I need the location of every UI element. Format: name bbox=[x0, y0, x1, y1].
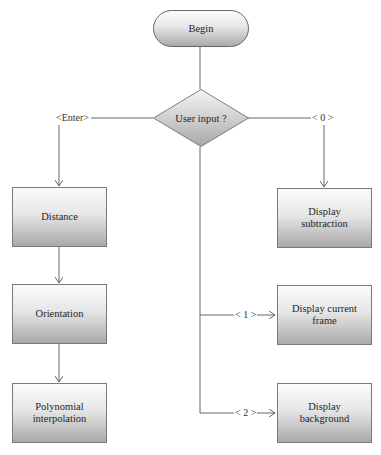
polynomial-interpolation-process: Polynomial interpolation bbox=[12, 383, 107, 443]
display-background-label: Display background bbox=[292, 401, 357, 425]
display-current-frame-process: Display current frame bbox=[277, 285, 372, 345]
branch-label-enter: <Enter> bbox=[55, 112, 90, 124]
display-subtraction-process: Display subtraction bbox=[277, 188, 372, 248]
distance-label: Distance bbox=[41, 211, 78, 223]
decision-label: User input ? bbox=[153, 89, 249, 147]
distance-process: Distance bbox=[12, 187, 107, 247]
display-background-process: Display background bbox=[277, 383, 372, 443]
branch-label-1: < 1 > bbox=[234, 309, 257, 321]
user-input-decision: User input ? bbox=[153, 89, 249, 147]
begin-terminal: Begin bbox=[153, 10, 249, 47]
orientation-process: Orientation bbox=[12, 284, 107, 344]
branch-label-2: < 2 > bbox=[234, 407, 257, 419]
display-current-frame-label: Display current frame bbox=[288, 303, 361, 327]
polynomial-label: Polynomial interpolation bbox=[27, 401, 92, 425]
branch-label-0: < 0 > bbox=[311, 112, 334, 124]
display-subtraction-label: Display subtraction bbox=[296, 206, 353, 230]
begin-label: Begin bbox=[188, 23, 213, 35]
orientation-label: Orientation bbox=[36, 308, 84, 320]
